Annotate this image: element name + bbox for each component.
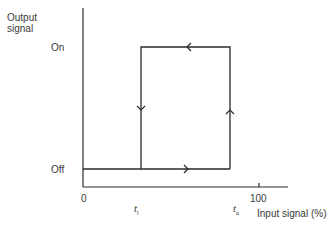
x-tick-label-0: 0 [81,193,87,204]
lower-threshold-label: tl [134,203,139,219]
on-level-label: On [51,42,64,53]
off-level-label: Off [51,164,64,175]
upper-threshold-label: tu [233,203,239,219]
y-axis-label: Output signal [7,12,37,34]
y-axis-label-line2: signal [7,23,37,34]
y-axis-label-line1: Output [7,12,37,23]
hysteresis-diagram [0,0,336,226]
x-tick-label-100: 100 [250,193,267,204]
x-axis-label: Input signal (%) [257,208,326,219]
hysteresis-loop [141,47,230,169]
